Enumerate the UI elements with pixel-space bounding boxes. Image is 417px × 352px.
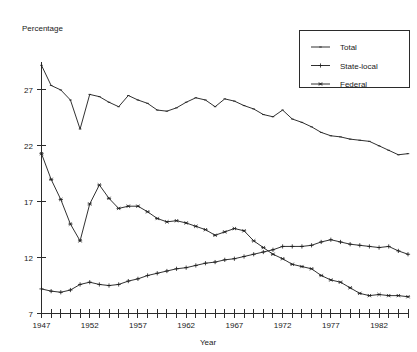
data-point-marker-star [319, 274, 323, 277]
x-tick-label: 1952 [81, 321, 99, 330]
data-point-marker-plus [78, 282, 82, 286]
data-point-marker-plus [223, 258, 227, 262]
y-tick-label: 17 [24, 198, 33, 207]
data-point-marker-star [242, 229, 246, 232]
data-point-marker-plus [261, 250, 265, 254]
data-point-marker-plus [203, 261, 207, 265]
data-point-marker-plus [194, 263, 198, 267]
y-tick-label: 12 [24, 254, 33, 263]
data-point-marker-star [252, 239, 256, 242]
legend-label: State-local [340, 62, 378, 71]
y-tick-label: 7 [29, 310, 34, 319]
data-point-marker-star [117, 207, 121, 210]
y-axis: 712172227 [24, 62, 46, 319]
y-tick-label: 22 [24, 142, 33, 151]
data-point-marker-star [145, 210, 149, 213]
data-point-marker-plus [387, 244, 391, 248]
data-point-marker-plus [338, 240, 342, 244]
series-line [42, 154, 409, 297]
data-point-marker-plus [329, 238, 333, 242]
data-point-marker-star [367, 294, 371, 297]
data-point-marker-plus [97, 282, 101, 286]
data-point-marker-plus [39, 287, 43, 291]
data-point-marker-plus [136, 277, 140, 281]
data-point-marker-star [396, 294, 400, 297]
data-point-marker-plus [252, 252, 256, 256]
legend-label: Total [340, 43, 357, 52]
data-point-marker-plus [59, 290, 63, 294]
x-tick-label: 1962 [177, 321, 195, 330]
data-point-marker-plus [358, 243, 362, 247]
data-point-marker-plus [88, 280, 92, 284]
data-point-marker-plus [319, 240, 323, 244]
data-point-marker-plus [232, 257, 236, 261]
data-series-group [39, 65, 410, 298]
data-point-marker-star [165, 220, 169, 223]
data-point-marker-plus [155, 271, 159, 275]
data-point-marker-plus [49, 289, 53, 293]
data-point-marker-star [261, 246, 265, 249]
data-point-marker-plus [271, 248, 275, 252]
data-point-marker-star [348, 286, 352, 289]
data-point-marker-plus [117, 282, 121, 286]
data-point-marker-plus [213, 260, 217, 264]
data-point-marker-star [155, 217, 159, 220]
x-axis-title: Year [200, 338, 217, 347]
data-point-marker-star [213, 234, 217, 237]
data-point-marker-plus [406, 252, 410, 256]
data-point-marker-plus [281, 244, 285, 248]
data-point-marker-star [300, 265, 304, 268]
data-point-marker-star [223, 230, 227, 233]
x-tick-label: 1967 [225, 321, 243, 330]
data-point-marker-star [281, 257, 285, 260]
series-state-local [39, 238, 410, 295]
data-point-marker-plus [242, 254, 246, 258]
series-federal [39, 152, 410, 298]
data-point-marker-star [271, 253, 275, 256]
x-tick-label: 1957 [129, 321, 147, 330]
data-point-marker-plus [145, 273, 149, 277]
chart-legend: TotalState-localFederal [300, 31, 410, 90]
data-point-marker-plus [367, 244, 371, 248]
x-tick-label: 1947 [33, 321, 51, 330]
data-point-marker-star [358, 292, 362, 295]
data-point-marker-plus [184, 266, 188, 270]
data-point-marker-star [338, 281, 342, 284]
x-axis: 19471952195719621967197219771982 Year [33, 309, 408, 347]
data-point-marker-plus [290, 244, 294, 248]
data-point-marker-plus [377, 245, 381, 249]
data-point-marker-plus [396, 249, 400, 253]
data-point-marker-plus [126, 279, 130, 283]
data-point-marker-plus [174, 267, 178, 271]
chart-container: Percentage 712172227 1947195219571962196… [0, 0, 417, 352]
y-axis-ticks: 712172227 [24, 86, 46, 319]
data-point-marker-star [377, 293, 381, 296]
data-point-marker-star [329, 278, 333, 281]
data-point-marker-star [290, 263, 294, 266]
data-point-marker-plus [300, 244, 304, 248]
data-point-marker-star [232, 227, 236, 230]
data-point-marker-star [194, 225, 198, 228]
legend-box [300, 31, 410, 88]
x-axis-tick-labels: 19471952195719621967197219771982 [33, 321, 389, 330]
data-point-marker-plus [107, 283, 111, 287]
data-point-marker-star [184, 221, 188, 224]
data-point-marker-star [387, 294, 391, 297]
legend-label: Federal [340, 80, 367, 89]
x-tick-label: 1972 [274, 321, 292, 330]
y-tick-label: 27 [24, 86, 33, 95]
data-point-marker-plus [68, 288, 72, 292]
data-point-marker-plus [165, 269, 169, 273]
data-point-marker-plus [309, 243, 313, 247]
data-point-marker-star [174, 219, 178, 222]
series-line [42, 240, 409, 293]
data-point-marker-star [97, 183, 101, 186]
x-tick-label: 1982 [370, 321, 388, 330]
data-point-marker-star [136, 205, 140, 208]
data-point-marker-star [107, 197, 111, 200]
data-point-marker-star [126, 205, 130, 208]
line-chart: Percentage 712172227 1947195219571962196… [0, 0, 417, 352]
data-point-marker-star [203, 228, 207, 231]
data-point-marker-star [309, 267, 313, 270]
x-tick-label: 1977 [322, 321, 340, 330]
